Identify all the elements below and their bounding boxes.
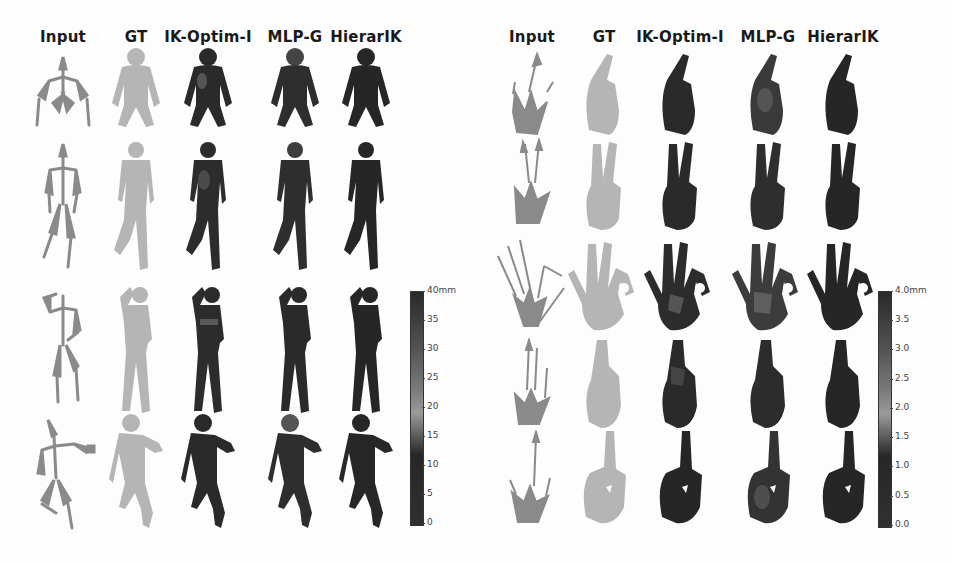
column-header-mlp-g: MLP-G (741, 28, 796, 46)
body-row1-mlp-g-mesh (263, 45, 327, 135)
hand-row3-gt-mesh (564, 234, 644, 334)
body-row3-input-skeleton (38, 290, 88, 410)
body-row4-ik-optim-i-mesh (175, 413, 241, 533)
colorbar-tick: 2.5 (895, 373, 909, 383)
colorbar-max-label: 4.0mm (895, 285, 927, 295)
colorbar-tick: 2.0 (895, 402, 909, 412)
body-row2-input-skeleton (38, 142, 88, 272)
body-row3-mlp-g-mesh (267, 283, 323, 418)
colorbar-tick: 25 (427, 372, 438, 382)
hand-row1-input-skeleton (507, 52, 557, 137)
hand-row4-mlp-g-mesh (743, 336, 793, 431)
hand-row1-hierarik-mesh (818, 50, 868, 140)
error-colorbar-body (410, 291, 424, 526)
body-row2-hierarik-mesh (338, 140, 394, 275)
colorbar-tick: 15 (427, 430, 438, 440)
column-header-hierarik: HierarIK (807, 28, 879, 46)
body-row2-mlp-g-mesh (267, 140, 323, 275)
column-header-ik-optim-i: IK-Optim-I (636, 28, 723, 46)
hand-row1-gt-mesh (579, 50, 629, 140)
hand-row5-hierarik-mesh (815, 427, 871, 527)
colorbar-tick: 3.5 (895, 314, 909, 324)
body-row2-ik-optim-i-mesh (180, 140, 236, 275)
colorbar-tick: 0 (427, 517, 433, 527)
body-row1-gt-mesh (104, 45, 168, 135)
column-header-hierarik: HierarIK (330, 28, 402, 46)
hand-row5-ik-optim-i-mesh (652, 427, 708, 527)
column-header-gt: GT (593, 28, 616, 46)
column-header-gt: GT (125, 28, 148, 46)
hand-row3-hierarik-mesh (803, 234, 883, 334)
body-row3-gt-mesh (108, 283, 164, 418)
body-row3-hierarik-mesh (338, 283, 394, 418)
hand-panel: Input GT IK-Optim-I MLP-G HierarIK (480, 0, 953, 563)
body-row1-ik-optim-i-mesh (176, 45, 240, 135)
hand-row1-mlp-g-mesh (743, 50, 793, 140)
body-row4-input-skeleton (28, 418, 98, 533)
column-header-input: Input (509, 28, 555, 46)
colorbar-tick: 30 (427, 343, 438, 353)
body-row2-gt-mesh (108, 140, 164, 275)
colorbar-tick: 5 (427, 488, 433, 498)
hand-row5-gt-mesh (576, 427, 632, 527)
body-panel: Input GT IK-Optim-I MLP-G HierarIK (0, 0, 470, 563)
hand-row4-input-skeleton (507, 338, 557, 428)
colorbar-tick: 0.0 (895, 519, 909, 529)
colorbar-tick: 20 (427, 401, 438, 411)
hand-row2-input-skeleton (507, 138, 557, 228)
colorbar-tick: 1.5 (895, 431, 909, 441)
colorbar-tick: 10 (427, 459, 438, 469)
hand-row5-mlp-g-mesh (740, 427, 796, 527)
column-header-input: Input (40, 28, 86, 46)
body-row4-mlp-g-mesh (262, 413, 328, 533)
body-row3-ik-optim-i-mesh (180, 283, 236, 418)
colorbar-tick: 35 (427, 314, 438, 324)
body-row4-hierarik-mesh (333, 413, 399, 533)
hand-row2-hierarik-mesh (818, 138, 868, 233)
hand-row4-gt-mesh (579, 336, 629, 431)
colorbar-max-label: 40mm (427, 285, 456, 295)
hand-row3-input-skeleton (494, 236, 570, 331)
hand-row4-ik-optim-i-mesh (655, 336, 705, 431)
hand-row4-hierarik-mesh (818, 336, 868, 431)
colorbar-tick: 1.0 (895, 460, 909, 470)
hand-row2-mlp-g-mesh (743, 138, 793, 233)
hand-row5-input-skeleton (504, 430, 560, 525)
hand-row3-mlp-g-mesh (728, 234, 808, 334)
colorbar-tick: 0.5 (895, 490, 909, 500)
column-header-mlp-g: MLP-G (268, 28, 323, 46)
colorbar-tick: 3.0 (895, 343, 909, 353)
hand-row3-ik-optim-i-mesh (640, 234, 720, 334)
body-row4-gt-mesh (103, 413, 169, 533)
hand-row1-ik-optim-i-mesh (655, 50, 705, 140)
hand-row2-ik-optim-i-mesh (655, 138, 705, 233)
error-colorbar-hand (878, 291, 892, 528)
body-row1-hierarik-mesh (334, 45, 398, 135)
hand-row2-gt-mesh (579, 138, 629, 233)
body-row1-input-skeleton (31, 55, 95, 135)
column-header-ik-optim-i: IK-Optim-I (164, 28, 251, 46)
